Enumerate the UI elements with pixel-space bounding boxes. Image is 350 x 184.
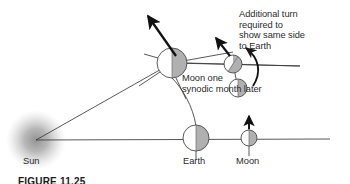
label-sun: Sun (23, 156, 40, 166)
earth-body (183, 125, 210, 152)
label-moon: Moon (236, 156, 259, 166)
ray-upper-left (144, 54, 158, 58)
figure-root: Additional turn required to show same si… (0, 0, 350, 184)
ray-lower-left (139, 72, 160, 86)
moon-same-phase-arrow (216, 38, 230, 56)
moon-body (241, 130, 258, 147)
figure-caption: FIGURE 11.25 (18, 176, 85, 184)
annotation-additional-turn: Additional turn required to show same si… (239, 9, 305, 51)
line-to-moon-b (186, 63, 300, 66)
sight-line-upper (36, 63, 172, 140)
label-earth: Earth (183, 156, 205, 166)
earth-later-spin-arrow (148, 16, 176, 56)
annotation-moon-one-synodic-month-later: Moon one synodic month later (182, 73, 262, 94)
